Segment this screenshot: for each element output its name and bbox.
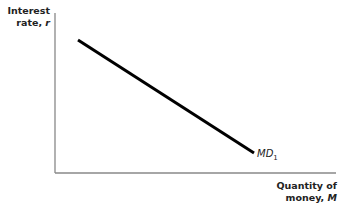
x-axis-label-line1: Quantity of (237, 180, 337, 192)
y-axis-label-line2: rate, (16, 17, 45, 28)
x-axis-label-line2: money, (286, 192, 328, 203)
y-axis-variable: r (45, 17, 50, 28)
y-axis-label-line1: Interest (0, 5, 50, 17)
x-axis-variable: M (328, 192, 337, 203)
curve-label-md1: MD1 (257, 148, 278, 162)
money-demand-curve (78, 40, 254, 153)
curve-label-subscript: 1 (273, 154, 277, 162)
y-axis-label: Interest rate, r (0, 5, 50, 29)
curve-label-main: MD (257, 148, 273, 159)
x-axis-label: Quantity of money, M (237, 180, 337, 204)
